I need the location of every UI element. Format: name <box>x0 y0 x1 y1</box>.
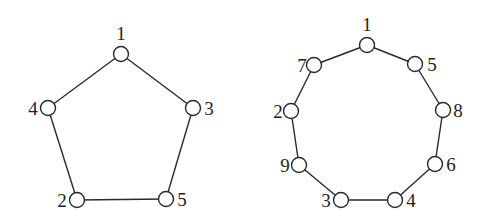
node-label: 7 <box>297 55 307 76</box>
node-label: 5 <box>177 189 187 210</box>
node-9 <box>292 158 307 173</box>
node-label: 3 <box>204 98 214 119</box>
node-2 <box>284 104 299 119</box>
node-6 <box>428 157 443 172</box>
node-label: 6 <box>446 154 456 175</box>
graph-figure: 14325 175289634 <box>0 0 486 223</box>
node-4 <box>41 101 56 116</box>
node-5 <box>408 57 423 72</box>
edge-3-5 <box>166 108 193 199</box>
node-label: 3 <box>321 190 331 211</box>
edge-2-5 <box>77 199 166 200</box>
node-1 <box>360 38 375 53</box>
node-2 <box>70 193 85 208</box>
edge-1-4 <box>48 54 121 108</box>
node-3 <box>186 101 201 116</box>
node-3 <box>334 193 349 208</box>
node-label: 8 <box>453 100 463 121</box>
node-label: 2 <box>273 101 283 122</box>
edge-4-2 <box>48 108 77 200</box>
node-7 <box>307 58 322 73</box>
node-8 <box>436 103 451 118</box>
node-label: 1 <box>362 14 372 35</box>
node-label: 2 <box>57 190 67 211</box>
node-label: 9 <box>280 155 290 176</box>
node-label: 4 <box>406 190 416 211</box>
node-5 <box>159 192 174 207</box>
node-label: 4 <box>28 98 38 119</box>
node-label: 5 <box>427 54 437 75</box>
nonagon-graph: 175289634 <box>273 14 463 211</box>
node-1 <box>114 47 129 62</box>
node-4 <box>388 193 403 208</box>
edge-1-7 <box>314 45 367 65</box>
edge-9-3 <box>299 165 341 200</box>
pentagon-graph: 14325 <box>28 23 214 211</box>
edge-1-3 <box>121 54 193 108</box>
node-label: 1 <box>116 23 126 44</box>
